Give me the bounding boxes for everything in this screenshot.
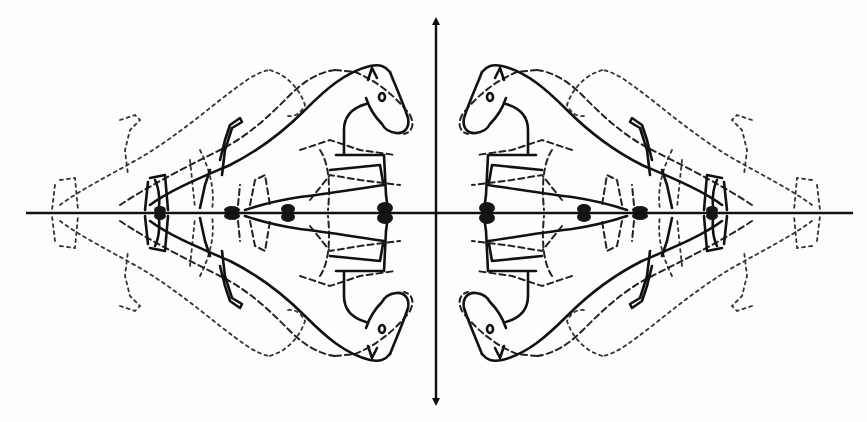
axis-arrow-down-icon	[432, 398, 440, 406]
figure-canvas	[0, 0, 867, 422]
horse-reflection-diagram	[0, 0, 867, 422]
axis-arrow-up-icon	[432, 17, 440, 25]
quadrant-top-left	[52, 65, 412, 214]
quadrant-bottom-left	[52, 212, 412, 361]
quadrant-top-right	[460, 65, 820, 214]
quadrant-bottom-right	[460, 212, 820, 361]
